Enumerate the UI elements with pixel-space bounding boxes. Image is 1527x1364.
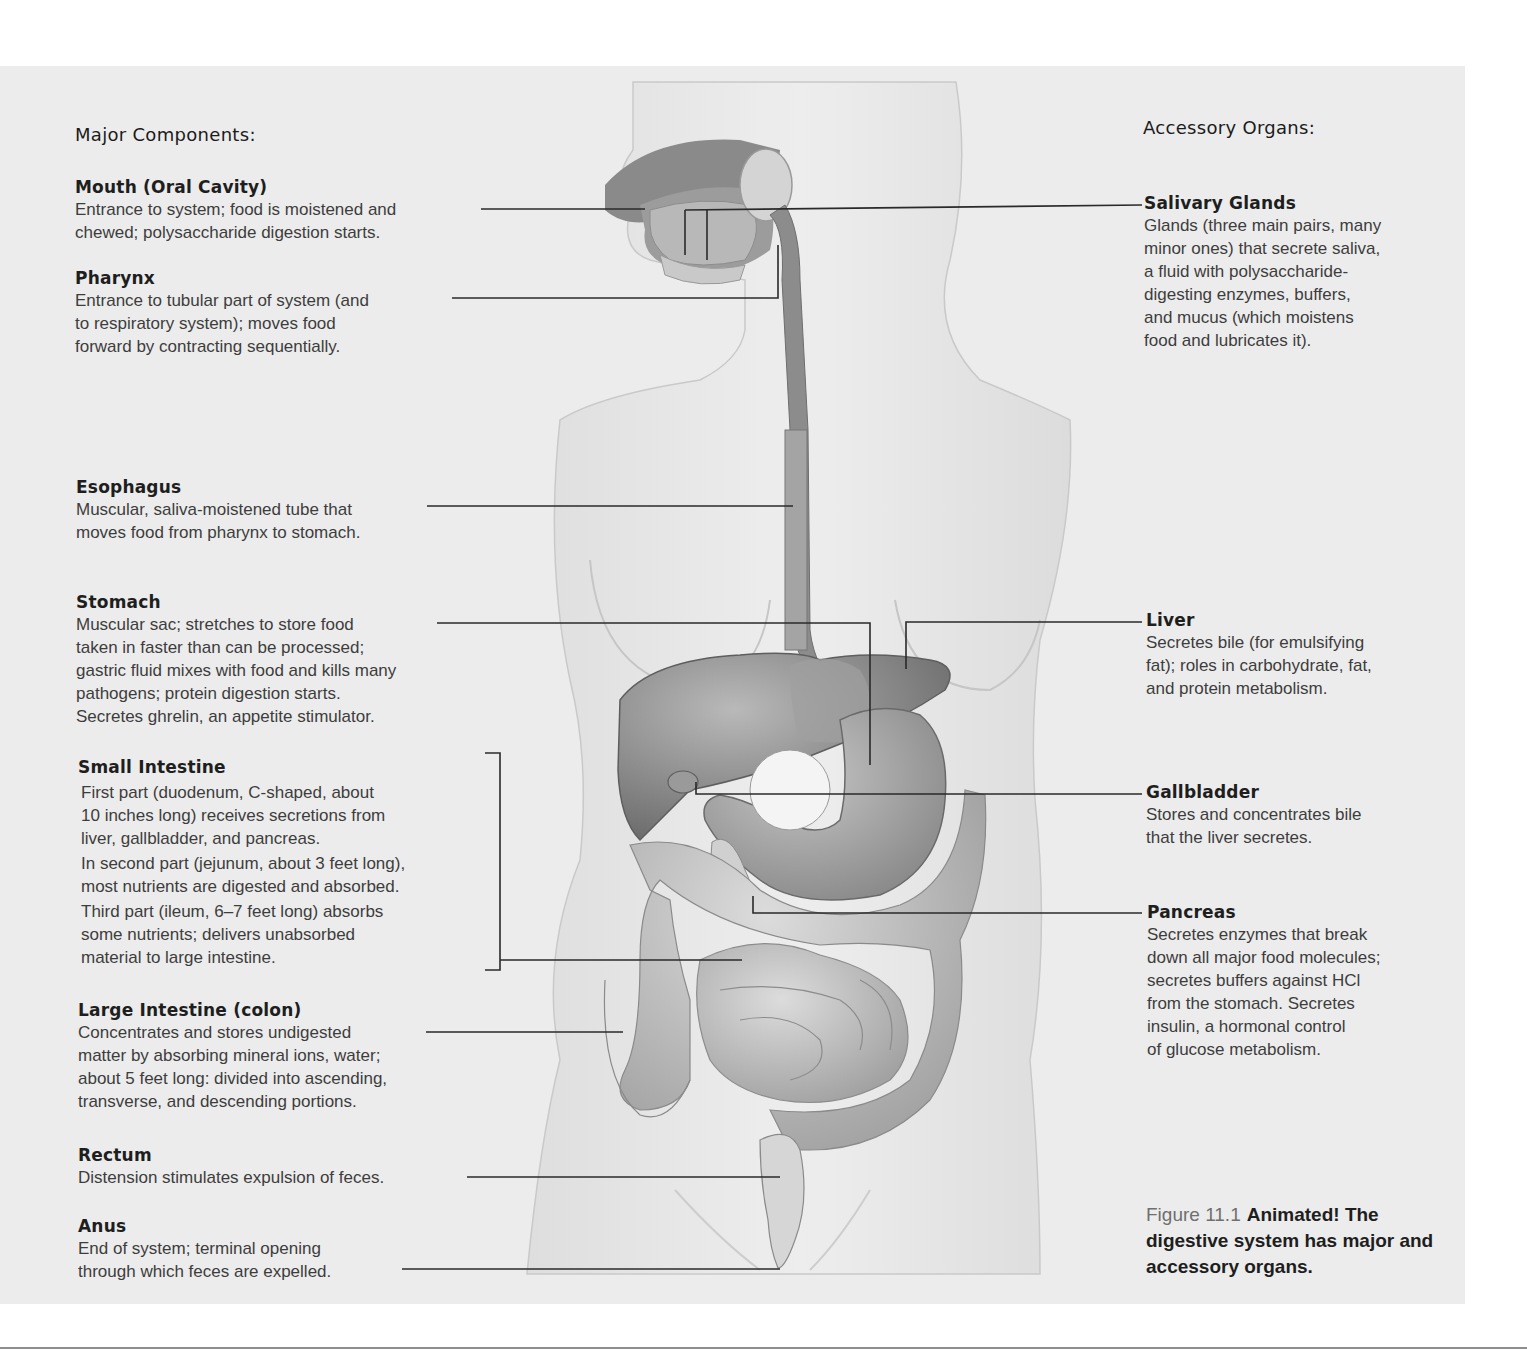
desc-rectum: Distension stimulates expulsion of feces… xyxy=(78,1166,384,1189)
term-anus: Anus xyxy=(78,1215,331,1237)
major-components-heading: Major Components: xyxy=(75,124,256,145)
desc-jejunum: In second part (jejunum, about 3 feet lo… xyxy=(78,852,405,898)
term-stomach: Stomach xyxy=(76,591,396,613)
desc-liver: Secretes bile (for emulsifying fat); rol… xyxy=(1146,631,1372,700)
desc-anus: End of system; terminal opening through … xyxy=(78,1237,331,1283)
term-rectum: Rectum xyxy=(78,1144,384,1166)
desc-pancreas: Secretes enzymes that break down all maj… xyxy=(1147,923,1380,1061)
desc-salivary-glands: Glands (three main pairs, many minor one… xyxy=(1144,214,1381,352)
term-small-intestine: Small Intestine xyxy=(78,756,405,778)
label-salivary-glands: Salivary Glands Glands (three main pairs… xyxy=(1144,192,1381,352)
accessory-organs-heading: Accessory Organs: xyxy=(1143,117,1315,138)
term-salivary-glands: Salivary Glands xyxy=(1144,192,1381,214)
desc-duodenum: First part (duodenum, C-shaped, about 10… xyxy=(78,781,405,850)
term-pancreas: Pancreas xyxy=(1147,901,1380,923)
desc-gallbladder: Stores and concentrates bile that the li… xyxy=(1146,803,1361,849)
label-small-intestine: Small Intestine First part (duodenum, C-… xyxy=(78,756,405,969)
desc-pharynx: Entrance to tubular part of system (and … xyxy=(75,289,369,358)
desc-stomach: Muscular sac; stretches to store food ta… xyxy=(76,613,396,728)
desc-large-intestine: Concentrates and stores undigested matte… xyxy=(78,1021,387,1113)
gallbladder xyxy=(668,771,698,793)
desc-mouth: Entrance to system; food is moistened an… xyxy=(75,198,396,244)
term-pharynx: Pharynx xyxy=(75,267,369,289)
figure-caption: Figure 11.1Animated! The digestive syste… xyxy=(1146,1202,1446,1280)
label-anus: Anus End of system; terminal opening thr… xyxy=(78,1215,331,1283)
label-esophagus: Esophagus Muscular, saliva-moistened tub… xyxy=(76,476,360,544)
label-gallbladder: Gallbladder Stores and concentrates bile… xyxy=(1146,781,1361,849)
label-rectum: Rectum Distension stimulates expulsion o… xyxy=(78,1144,384,1189)
label-large-intestine: Large Intestine (colon) Concentrates and… xyxy=(78,999,387,1113)
term-esophagus: Esophagus xyxy=(76,476,360,498)
label-pharynx: Pharynx Entrance to tubular part of syst… xyxy=(75,267,369,358)
desc-ileum: Third part (ileum, 6–7 feet long) absorb… xyxy=(78,900,405,969)
desc-esophagus: Muscular, saliva-moistened tube that mov… xyxy=(76,498,360,544)
term-large-intestine: Large Intestine (colon) xyxy=(78,999,387,1021)
figure-number: Figure 11.1 xyxy=(1146,1204,1241,1225)
label-pancreas: Pancreas Secretes enzymes that break dow… xyxy=(1147,901,1380,1061)
term-mouth: Mouth (Oral Cavity) xyxy=(75,176,396,198)
term-gallbladder: Gallbladder xyxy=(1146,781,1361,803)
term-liver: Liver xyxy=(1146,609,1372,631)
label-mouth: Mouth (Oral Cavity) Entrance to system; … xyxy=(75,176,396,244)
label-liver: Liver Secretes bile (for emulsifying fat… xyxy=(1146,609,1372,700)
label-stomach: Stomach Muscular sac; stretches to store… xyxy=(76,591,396,728)
